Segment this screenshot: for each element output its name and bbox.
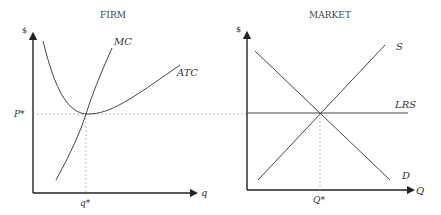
market-y-axis-label: $ xyxy=(236,25,241,34)
firm-panel: FIRM $ q P* q* MC ATC xyxy=(13,10,247,208)
market-x-axis-label: Q xyxy=(416,185,424,196)
p-star-label: P* xyxy=(13,109,25,119)
firm-y-axis-label: $ xyxy=(22,26,27,35)
diagram-canvas: FIRM $ q P* q* MC ATC MARKET $ Q Q* LRS … xyxy=(0,0,441,215)
q-star-label: q* xyxy=(80,198,91,208)
market-panel: MARKET $ Q Q* LRS D S xyxy=(236,10,424,205)
atc-curve xyxy=(43,41,180,114)
firm-title: FIRM xyxy=(100,10,126,20)
atc-label: ATC xyxy=(176,67,198,78)
mc-label: MC xyxy=(113,36,132,47)
firm-x-axis-label: q xyxy=(201,187,207,198)
big-q-star-label: Q* xyxy=(313,195,325,205)
market-title: MARKET xyxy=(309,10,351,20)
demand-label: D xyxy=(401,170,410,181)
lrs-label: LRS xyxy=(394,99,416,110)
demand-curve xyxy=(255,51,390,180)
supply-label: S xyxy=(396,41,403,52)
